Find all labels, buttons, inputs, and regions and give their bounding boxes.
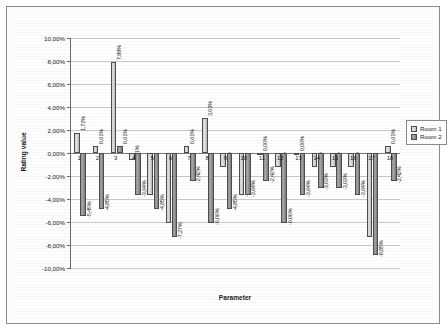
legend-swatch-icon-room-2 xyxy=(411,134,417,140)
bar-value-label: -7,27% xyxy=(177,222,183,239)
bar-room-1-cat-8[interactable] xyxy=(202,118,208,153)
y-axis-tick-label: -2,00% xyxy=(45,173,65,180)
bar-value-label: 1,72% xyxy=(80,116,86,131)
gridline xyxy=(71,107,400,108)
x-axis-category-label-1: 1 xyxy=(70,155,88,161)
x-axis-title: Parameter xyxy=(70,294,400,301)
bar-value-label: -6,06% xyxy=(214,208,220,225)
x-axis-category-label-8: 8 xyxy=(198,155,216,161)
chart-canvas: Rating value 10,00%8,00%6,00%4,00%2,00%0… xyxy=(14,12,434,318)
y-axis-tick-label: 4,00% xyxy=(47,104,65,111)
y-axis-tick xyxy=(67,38,71,39)
y-axis-tick xyxy=(67,107,71,108)
legend-item-room-2[interactable]: Room 2 xyxy=(411,133,442,140)
bar-value-label: -2,42% xyxy=(269,166,275,183)
x-axis-category-label-10: 10 xyxy=(235,155,253,161)
bar-room-1-cat-2[interactable] xyxy=(93,146,99,153)
gridline xyxy=(71,176,400,177)
x-axis-category-label-11: 11 xyxy=(253,155,271,161)
bar-value-label: -3,64% xyxy=(141,180,147,197)
y-axis-tick xyxy=(67,84,71,85)
bar-room-1-cat-7[interactable] xyxy=(184,146,190,153)
legend-item-room-1[interactable]: Room 1 xyxy=(411,125,442,132)
bar-value-label: 0,61% xyxy=(189,129,195,144)
y-axis-tick-label: -6,00% xyxy=(45,219,65,226)
bar-value-label: 7,88% xyxy=(116,46,122,61)
bar-room-2-cat-3[interactable] xyxy=(117,146,123,153)
x-axis-category-label-3: 3 xyxy=(107,155,125,161)
y-axis-tick xyxy=(67,176,71,177)
bar-value-label: -3,64% xyxy=(305,180,311,197)
bar-value-label: -5,45% xyxy=(86,201,92,218)
y-axis-tick xyxy=(67,61,71,62)
bar-value-label: -8,85% xyxy=(378,240,384,257)
bar-room-1-cat-18[interactable] xyxy=(385,146,391,153)
bar-room-1-cat-1[interactable] xyxy=(74,133,80,153)
bar-value-label: -3,64% xyxy=(360,180,366,197)
x-axis-category-label-9: 9 xyxy=(216,155,234,161)
bar-value-label: -4,85% xyxy=(104,194,110,211)
gridline xyxy=(71,268,400,269)
bar-value-label: -6,06% xyxy=(287,208,293,225)
x-axis-category-label-6: 6 xyxy=(161,155,179,161)
x-axis-category-label-4: 4 xyxy=(125,155,143,161)
y-axis-tick-label: 0,00% xyxy=(47,150,65,157)
gridline xyxy=(71,61,400,62)
y-axis-tick-label: 8,00% xyxy=(47,58,65,65)
x-axis-category-label-5: 5 xyxy=(143,155,161,161)
y-axis-tick xyxy=(67,268,71,269)
bar-value-label: -3,64% xyxy=(250,180,256,197)
bar-value-label: 0,61% xyxy=(122,129,128,144)
legend-swatch-icon-room-1 xyxy=(411,126,417,132)
y-axis-tick xyxy=(67,222,71,223)
y-axis-tick-label: 10,00% xyxy=(44,35,65,42)
bar-value-label: -2,42% xyxy=(195,166,201,183)
y-axis-tick-label: -4,00% xyxy=(45,196,65,203)
y-axis-tick-label: 6,00% xyxy=(47,81,65,88)
x-axis-category-label-2: 2 xyxy=(88,155,106,161)
chart-screenshot: Rating value 10,00%8,00%6,00%4,00%2,00%0… xyxy=(0,0,448,332)
chart-legend: Room 1 Room 2 xyxy=(406,120,447,145)
y-axis-tick xyxy=(67,245,71,246)
bar-value-label: 0,00% xyxy=(262,136,268,151)
bar-value-label: 0,61% xyxy=(98,129,104,144)
x-axis-category-label-7: 7 xyxy=(180,155,198,161)
x-axis-category-label-15: 15 xyxy=(326,155,344,161)
bar-room-1-cat-3[interactable] xyxy=(111,62,117,153)
x-axis-category-label-16: 16 xyxy=(344,155,362,161)
plot-area: 10,00%8,00%6,00%4,00%2,00%0,00%-2,00%-4,… xyxy=(70,38,400,268)
bar-value-label: -3,03% xyxy=(342,173,348,190)
gridline xyxy=(71,130,400,131)
gridline xyxy=(71,245,400,246)
x-axis-category-label-18: 18 xyxy=(381,155,399,161)
gridline xyxy=(71,38,400,39)
x-axis-category-label-14: 14 xyxy=(308,155,326,161)
bar-value-label: 3,03% xyxy=(207,101,213,116)
y-axis-tick-label: -8,00% xyxy=(45,242,65,249)
gridline xyxy=(71,84,400,85)
bar-value-label: -3,03% xyxy=(323,173,329,190)
bar-value-label: -2,42% xyxy=(396,166,402,183)
y-axis-title: Rating value xyxy=(20,132,27,171)
bar-value-label: 0,00% xyxy=(299,136,305,151)
legend-label-room-2: Room 2 xyxy=(420,133,442,140)
y-axis-tick xyxy=(67,199,71,200)
gridline xyxy=(71,222,400,223)
x-axis-category-label-17: 17 xyxy=(362,155,380,161)
bar-value-label: 0,61% xyxy=(390,129,396,144)
x-axis-category-label-12: 12 xyxy=(271,155,289,161)
y-axis-tick-label: -10,00% xyxy=(42,265,65,272)
x-axis-category-label-13: 13 xyxy=(289,155,307,161)
bar-value-label: -4,85% xyxy=(232,194,238,211)
legend-label-room-1: Room 1 xyxy=(420,125,442,132)
bar-value-label: -4,85% xyxy=(159,194,165,211)
y-axis-tick xyxy=(67,130,71,131)
y-axis-tick-label: 2,00% xyxy=(47,127,65,134)
